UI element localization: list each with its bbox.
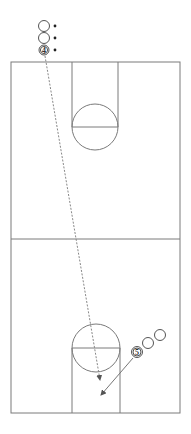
player-4-label: 4 [42,46,46,55]
court-boundary [11,62,180,413]
player-5: 5 [132,347,143,358]
player-right-2 [155,330,166,341]
player-right-1 [143,338,154,349]
player-top-1 [39,21,57,32]
player-top-2 [39,33,57,44]
bottom-key [72,324,120,413]
ball-icon [54,25,57,28]
player-4: 4 [39,45,56,55]
ball-icon [54,49,57,52]
player-5-label: 5 [135,348,139,357]
player-circle [39,33,50,44]
court-diagram: 4 5 [0,0,191,434]
top-key [72,62,118,150]
player-circle [39,21,50,32]
cut-path-arrow [101,358,133,395]
ball-icon [54,37,57,40]
